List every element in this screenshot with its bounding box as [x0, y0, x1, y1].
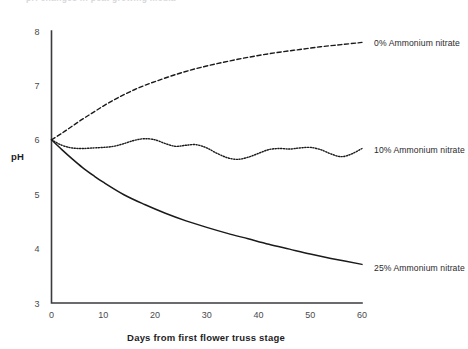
x-axis-tick-labels: 0102030405060: [49, 310, 367, 320]
y-tick-label: 5: [34, 190, 39, 200]
y-tick-label: 8: [34, 27, 39, 37]
x-tick-label: 50: [305, 310, 315, 320]
ph-chart: pH changes in peat growing media 345678 …: [0, 0, 468, 349]
axes: [52, 31, 363, 303]
y-tick-label: 3: [34, 299, 39, 309]
series-inline-labels: 0% Ammonium nitrate10% Ammonium nitrate2…: [374, 38, 465, 273]
x-tick-label: 0: [49, 310, 54, 320]
series-curve-2: [52, 140, 363, 265]
series-label-0: 0% Ammonium nitrate: [374, 38, 460, 48]
axis-lines: [52, 31, 363, 303]
y-axis-title: pH: [11, 151, 24, 162]
y-tick-label: 6: [34, 135, 39, 145]
clipped-header-text: pH changes in peat growing media: [26, 0, 326, 3]
series-label-1: 10% Ammonium nitrate: [374, 145, 465, 155]
series-label-2: 25% Ammonium nitrate: [374, 263, 465, 273]
y-tick-label: 4: [34, 244, 39, 254]
y-tick-label: 7: [34, 81, 39, 91]
x-tick-label: 10: [98, 310, 108, 320]
x-tick-label: 60: [357, 310, 367, 320]
chart-canvas: 345678 0102030405060 0% Ammonium nitrate…: [0, 0, 468, 349]
data-series-curves: [52, 42, 363, 264]
x-tick-label: 20: [150, 310, 160, 320]
x-tick-label: 40: [253, 310, 263, 320]
series-curve-1: [52, 139, 363, 160]
x-axis-title: Days from first flower truss stage: [127, 332, 285, 343]
y-axis-tick-labels: 345678: [34, 27, 39, 309]
series-curve-0: [52, 42, 363, 139]
x-tick-label: 30: [202, 310, 212, 320]
